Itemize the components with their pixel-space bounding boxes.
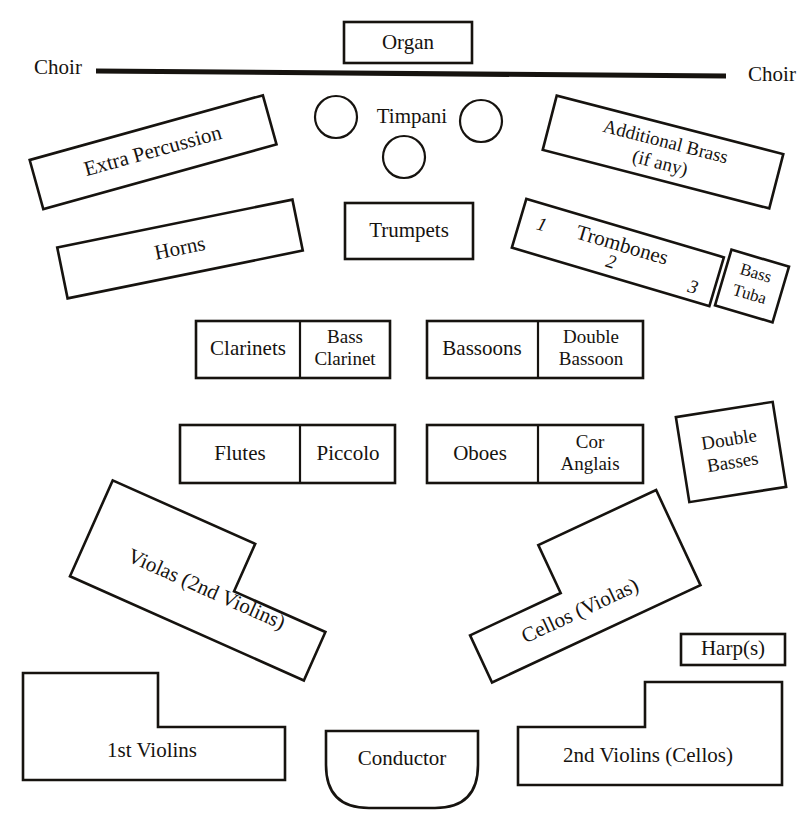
timpani-drum-right <box>460 100 502 142</box>
orchestra-seating-diagram: Organ Choir Choir Timpani Extra Percussi… <box>0 0 812 826</box>
timpani-drum-center <box>383 136 425 178</box>
piccolo-label: Piccolo <box>317 441 380 465</box>
oboe-group-box: Oboes Cor Anglais <box>427 425 643 483</box>
double-basses-box: Double Basses <box>676 402 786 502</box>
trumpets-label: Trumpets <box>369 218 449 242</box>
double-bassoon-label-line1: Double <box>563 326 619 347</box>
timpani-drum-left <box>315 96 357 138</box>
clarinets-label: Clarinets <box>210 336 286 360</box>
bass-clarinet-label-line2: Clarinet <box>314 348 376 369</box>
flute-group-box: Flutes Piccolo <box>180 425 395 483</box>
timpani-label: Timpani <box>377 104 448 128</box>
conductor-label: Conductor <box>358 746 447 770</box>
choir-label-left: Choir <box>34 55 82 79</box>
harps-label: Harp(s) <box>701 636 765 660</box>
second-violins-box: 2nd Violins (Cellos) <box>518 682 782 785</box>
first-violins-box: 1st Violins <box>23 673 285 780</box>
choir-divider-line <box>96 71 726 76</box>
first-violins-label: 1st Violins <box>107 738 197 762</box>
organ-box: Organ <box>344 22 472 63</box>
cor-anglais-label-line2: Anglais <box>560 453 619 474</box>
bass-clarinet-label-line1: Bass <box>327 326 363 347</box>
violas-box: Violas (2nd Violins) <box>70 480 347 680</box>
timpani-group: Timpani <box>315 96 502 178</box>
flutes-label: Flutes <box>214 441 265 465</box>
additional-brass-box: Additional Brass (if any) <box>543 96 784 209</box>
trombones-box: Trombones 1 2 3 <box>512 199 724 306</box>
trumpets-box: Trumpets <box>345 203 473 259</box>
extra-percussion-box: Extra Percussion <box>30 95 277 209</box>
oboes-label: Oboes <box>453 441 507 465</box>
cellos-box: Cellos (Violas) <box>448 490 701 682</box>
cor-anglais-label-line1: Cor <box>576 431 605 452</box>
choir-label-right: Choir <box>748 62 796 86</box>
conductor-box: Conductor <box>326 731 478 808</box>
harps-box: Harp(s) <box>681 634 785 665</box>
horns-box: Horns <box>57 200 303 299</box>
organ-label: Organ <box>382 30 435 54</box>
second-violins-label: 2nd Violins (Cellos) <box>563 743 733 767</box>
bass-tuba-box: Bass Tuba <box>715 250 789 323</box>
clarinet-group-box: Clarinets Bass Clarinet <box>196 321 390 378</box>
double-bassoon-label-line2: Bassoon <box>559 348 624 369</box>
bassoons-label: Bassoons <box>442 336 521 360</box>
bassoon-group-box: Bassoons Double Bassoon <box>427 321 643 378</box>
